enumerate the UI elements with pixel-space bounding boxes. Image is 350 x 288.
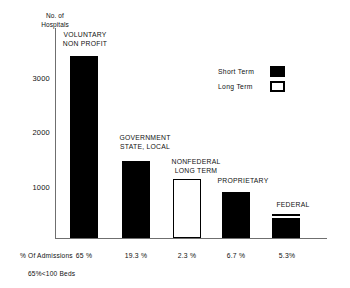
bar-nonfederal-long-term[interactable] bbox=[173, 179, 201, 238]
bar-label-proprietary: PROPRIETARY bbox=[212, 177, 274, 186]
admissions-value-nonfederal-long-term: 2.3 % bbox=[167, 252, 207, 259]
legend-label: Short Term bbox=[218, 68, 270, 75]
y-axis-line bbox=[55, 28, 56, 238]
bar-label-nonfederal-long-term: NONFEDERAL LONG TERM bbox=[163, 158, 229, 175]
bar-label-federal: FEDERAL bbox=[265, 201, 321, 210]
bar-label-government-state-local: GOVERNMENT STATE, LOCAL bbox=[111, 134, 179, 151]
bar-government-state-local[interactable] bbox=[122, 161, 150, 238]
legend-row: Short Term bbox=[218, 64, 285, 79]
y-tick-label: 3000 bbox=[20, 74, 50, 83]
bar-proprietary[interactable] bbox=[222, 192, 250, 238]
y-axis-ticks: 300020001000 bbox=[16, 0, 50, 288]
bar-label-voluntary-non-profit: VOLUNTARY NON PROFIT bbox=[54, 31, 116, 48]
legend-label: Long Term bbox=[218, 83, 270, 90]
x-axis-line bbox=[55, 238, 327, 239]
admissions-value-federal: 5.3% bbox=[267, 252, 307, 259]
admissions-value-proprietary: 6.7 % bbox=[216, 252, 256, 259]
bar-voluntary-non-profit[interactable] bbox=[70, 56, 98, 238]
y-tick-label: 2000 bbox=[20, 128, 50, 137]
bar-federal-long-term-segment bbox=[272, 215, 300, 219]
legend-swatch-long-term bbox=[270, 81, 285, 92]
admissions-value-government-state-local: 19.3 % bbox=[116, 252, 156, 259]
chart-legend: Short TermLong Term bbox=[218, 64, 285, 94]
bar-chart: No. of Hospitals 300020001000 VOLUNTARY … bbox=[0, 0, 350, 288]
legend-row: Long Term bbox=[218, 79, 285, 94]
bar-federal[interactable] bbox=[272, 214, 300, 238]
admissions-value-voluntary-non-profit: 65 % bbox=[64, 252, 104, 259]
chart-footnote: 65%<100 Beds bbox=[28, 270, 75, 277]
legend-swatch-short-term bbox=[270, 66, 285, 77]
y-tick-label: 1000 bbox=[20, 183, 50, 192]
